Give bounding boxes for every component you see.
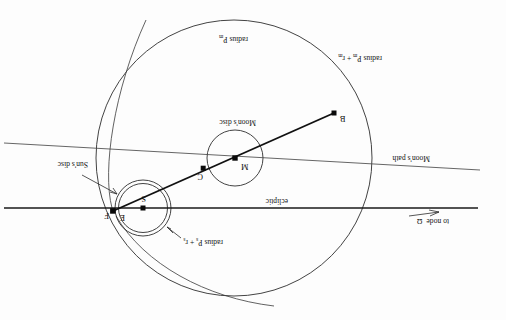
- point-label-C: C: [197, 172, 203, 181]
- arc-radius-pm-plus-rm: [116, 216, 274, 306]
- label-ecliptic: ecliptic: [265, 197, 288, 206]
- label-suns-disc: Sun's disc: [57, 160, 88, 169]
- label-radius-pm: radius Pm: [218, 34, 248, 44]
- point-label-B: B: [340, 114, 346, 123]
- label-radius-pm-plus-rm: radius Pm + rm: [338, 53, 383, 63]
- point-marker-B: [332, 111, 337, 116]
- point-label-M: M: [240, 162, 248, 171]
- point-marker-S: [141, 206, 146, 211]
- point-marker-C: [201, 166, 206, 171]
- diagram-rotated-group: M C S E F B to nodeΩ ecliptic Moon's pat…: [0, 0, 506, 320]
- point-marker-M: [232, 155, 237, 160]
- leader-radius-sun: [167, 227, 181, 238]
- leader-suns-disc: [82, 175, 117, 194]
- line-chord-b-to-f: [113, 113, 334, 211]
- arrow-to-node: [409, 210, 439, 216]
- label-radius-ps-plus-rs: radius Ps + rs: [183, 237, 223, 247]
- figure-canvas: M C S E F B to nodeΩ ecliptic Moon's pat…: [0, 0, 506, 320]
- point-label-E: E: [120, 213, 125, 222]
- label-to-node: to nodeΩ: [416, 217, 449, 226]
- point-label-F: F: [104, 211, 109, 220]
- point-label-S: S: [141, 194, 146, 203]
- label-moons-path: Moon's path: [392, 154, 430, 163]
- eclipse-geometry-diagram: M C S E F B to nodeΩ ecliptic Moon's pat…: [0, 0, 506, 320]
- point-marker-F: [110, 208, 116, 214]
- label-moons-disc: Moon's disc: [219, 118, 256, 127]
